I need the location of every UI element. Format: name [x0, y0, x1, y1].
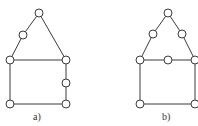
- diagram-a-label: a): [33, 111, 41, 123]
- node-left-roof-mid: [19, 31, 27, 39]
- node-top-left: [6, 56, 14, 64]
- node-right-wall-mid: [62, 79, 70, 87]
- node-bottom-left: [6, 100, 14, 108]
- edge-apex-top-right: [39, 13, 66, 60]
- diagram-b: b): [136, 9, 198, 123]
- node-apex: [164, 9, 172, 17]
- diagram-b-nodes: [136, 9, 198, 108]
- node-left-roof-mid: [149, 30, 157, 38]
- diagram-a-nodes: [6, 9, 70, 108]
- node-bottom-right: [191, 100, 198, 108]
- graph-diagrams: a) b): [0, 0, 198, 126]
- node-top-right: [191, 56, 198, 64]
- node-apex: [35, 9, 43, 17]
- diagram-a-edges: [10, 13, 66, 104]
- node-right-roof-mid: [178, 30, 186, 38]
- diagram-a: a): [6, 9, 70, 123]
- node-bottom-left: [136, 100, 144, 108]
- diagram-b-label: b): [162, 111, 170, 123]
- node-top-right: [62, 56, 70, 64]
- node-top-mid: [164, 56, 172, 64]
- node-bottom-right: [62, 100, 70, 108]
- node-top-left: [136, 56, 144, 64]
